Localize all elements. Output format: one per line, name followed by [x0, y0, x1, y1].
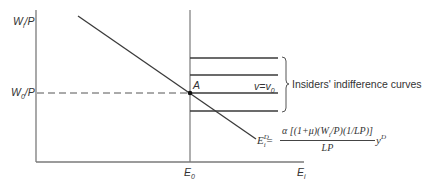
insiders-indifference-curves-label: Insiders' indifference curves	[292, 78, 422, 90]
brace-icon	[282, 57, 289, 112]
demand-equation-lhs: EDi=	[257, 133, 273, 149]
demand-equation-numerator: α [(1+μ)(Wi/P)(1/LP)]	[280, 125, 375, 141]
demand-equation-tail: yD	[376, 133, 386, 146]
demand-equation-denominator: LP	[322, 141, 334, 153]
point-a-label: A	[193, 79, 200, 91]
y-axis-label: Wi/P	[13, 15, 34, 29]
diagram-canvas	[0, 0, 429, 186]
x-tick-label-e0: E0	[184, 166, 195, 180]
curve-label-v0: v=v0	[254, 80, 275, 94]
demand-equation-fraction: α [(1+μ)(Wi/P)(1/LP)] LP	[280, 125, 375, 153]
labor-demand-curve	[78, 16, 256, 139]
point-a	[188, 91, 193, 96]
y-tick-label-w0: W0/P	[11, 86, 35, 100]
x-axis-label: Ei	[297, 166, 306, 180]
